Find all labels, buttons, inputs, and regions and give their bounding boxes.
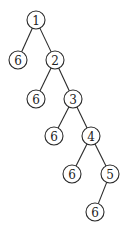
tree-diagram: 1626364656 [0,0,126,238]
tree-edge [40,28,51,52]
tree-node: 6 [63,165,81,183]
tree-edge [76,144,87,166]
tree-edge [22,28,33,52]
tree-edge [98,182,106,203]
tree-node: 6 [27,90,45,108]
node-label: 6 [32,93,40,107]
tree-node: 3 [64,90,82,108]
node-label: 3 [69,93,77,107]
tree-node: 5 [101,165,119,183]
node-label: 6 [91,206,99,220]
tree-edge [58,107,69,128]
node-label: 6 [14,54,22,68]
node-label: 2 [51,54,59,68]
tree-edge [40,68,51,91]
node-label: 5 [106,168,114,182]
node-label: 4 [87,130,95,144]
tree-node: 6 [45,127,63,145]
tree-edge [59,68,69,91]
node-label: 6 [68,168,76,182]
tree-node: 2 [46,51,64,69]
node-label: 6 [50,130,58,144]
tree-edge [77,107,87,128]
tree-edge [95,144,106,166]
node-label: 1 [32,14,40,28]
tree-node: 6 [86,203,104,221]
tree-node: 4 [82,127,100,145]
tree-node: 6 [9,51,27,69]
tree-node: 1 [27,11,45,29]
